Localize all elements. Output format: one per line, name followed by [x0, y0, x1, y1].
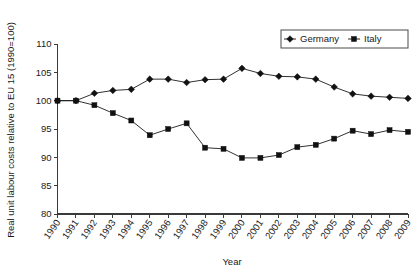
y-tick-label: 110: [36, 38, 51, 49]
data-point-marker: [203, 145, 208, 150]
y-tick-label: 90: [41, 152, 52, 163]
data-point-marker: [276, 73, 283, 80]
data-point-marker: [220, 76, 227, 83]
y-axis-label: Real unit labour costs relative to EU 15…: [5, 22, 16, 238]
x-tick-label: 2003: [281, 217, 302, 241]
x-tick-label: 2007: [355, 217, 376, 241]
x-tick-label: 1999: [207, 217, 228, 241]
y-tick-label: 105: [36, 67, 52, 78]
line-chart: Real unit labour costs relative to EU 15…: [0, 0, 418, 275]
x-tick-label: 2008: [373, 217, 394, 241]
x-tick-label: 1990: [41, 217, 62, 241]
data-point-marker: [129, 118, 134, 123]
data-point-marker: [91, 90, 98, 97]
x-tick-label: 2000: [226, 217, 247, 241]
legend-item-italy[interactable]: Italy: [364, 33, 382, 44]
data-point-marker: [239, 65, 246, 72]
legend-item-germany[interactable]: Germany: [300, 33, 339, 44]
data-point-marker: [183, 79, 190, 86]
data-point-marker: [312, 76, 319, 83]
x-tick-label: 1994: [115, 217, 136, 241]
data-point-marker: [387, 128, 392, 133]
x-axis: 1990199119921993199419951996199719981999…: [41, 214, 413, 241]
data-point-marker: [350, 128, 355, 133]
data-point-marker: [202, 76, 209, 83]
data-point-marker: [147, 133, 152, 138]
data-point-marker: [110, 87, 117, 94]
data-point-marker: [295, 145, 300, 150]
chart-container: Real unit labour costs relative to EU 15…: [0, 0, 418, 275]
data-point-marker: [166, 127, 171, 132]
y-tick-label: 100: [36, 95, 52, 106]
x-tick-label: 2004: [299, 217, 320, 241]
x-tick-label: 1991: [60, 217, 81, 241]
x-tick-label: 2009: [392, 217, 413, 241]
x-tick-label: 1996: [152, 217, 173, 241]
data-point-marker: [221, 146, 226, 151]
data-point-marker: [92, 103, 97, 108]
chart-legend: GermanyItaly: [281, 30, 408, 48]
data-point-marker: [368, 93, 375, 100]
plot-series: [54, 65, 411, 160]
data-point-marker: [369, 132, 374, 137]
x-tick-label: 1993: [97, 217, 118, 241]
y-tick-label: 85: [41, 180, 52, 191]
data-point-marker: [386, 94, 393, 101]
x-tick-label: 2006: [336, 217, 357, 241]
data-point-marker: [313, 142, 318, 147]
y-tick-label: 80: [41, 208, 52, 219]
x-axis-label: Year: [222, 256, 241, 267]
series-germany: [54, 65, 411, 104]
x-tick-label: 1995: [133, 217, 154, 241]
y-axis: 80859095100105110: [36, 38, 58, 219]
data-point-marker: [332, 136, 337, 141]
data-point-marker: [349, 91, 356, 98]
x-tick-label: 1998: [189, 217, 210, 241]
data-point-marker: [184, 121, 189, 126]
data-point-marker: [110, 111, 115, 116]
data-point-marker: [128, 86, 135, 93]
x-tick-label: 2001: [244, 217, 265, 241]
y-tick-label: 95: [41, 123, 52, 134]
data-point-marker: [55, 98, 60, 103]
data-point-marker: [258, 155, 263, 160]
data-point-marker: [239, 155, 244, 160]
x-tick-label: 1997: [170, 217, 191, 241]
data-point-marker: [331, 84, 338, 91]
series-italy: [55, 98, 411, 160]
series-line: [58, 68, 409, 100]
data-point-marker: [73, 98, 78, 103]
data-point-marker: [406, 129, 411, 134]
x-tick-label: 2005: [318, 217, 339, 241]
x-tick-label: 2002: [263, 217, 284, 241]
x-tick-label: 1992: [78, 217, 99, 241]
data-point-marker: [294, 74, 301, 81]
data-point-marker: [405, 95, 412, 102]
data-point-marker: [146, 76, 153, 83]
data-point-marker: [276, 153, 281, 158]
data-point-marker: [257, 70, 264, 77]
data-point-marker: [352, 37, 357, 42]
data-point-marker: [165, 76, 172, 83]
series-line: [58, 101, 409, 158]
